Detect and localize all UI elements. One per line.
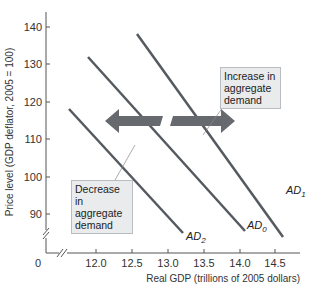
svg-text:0: 0 — [35, 257, 41, 269]
svg-text:130: 130 — [24, 58, 42, 70]
increase-arrow — [170, 109, 235, 133]
svg-text:12.5: 12.5 — [121, 257, 142, 269]
x-tick-labels: 0 12.0 12.5 13.0 13.5 14.0 14.5 — [35, 257, 286, 269]
annotation-line: demand — [75, 219, 129, 231]
svg-text:14.5: 14.5 — [264, 257, 285, 269]
annotation-line: demand — [224, 94, 277, 106]
ad0-label: AD0 — [246, 219, 267, 234]
decrease-annotation-box: Decrease in aggregate demand — [71, 180, 133, 234]
svg-text:90: 90 — [30, 208, 42, 220]
ad1-label: AD1 — [285, 184, 306, 199]
annotation-line: aggregate — [75, 207, 129, 219]
annotation-line: Decrease in — [75, 183, 129, 207]
svg-text:140: 140 — [24, 21, 42, 33]
increase-annotation-box: Increase in aggregate demand — [220, 67, 281, 109]
ad2-label: AD2 — [185, 230, 206, 245]
x-ticks — [96, 249, 275, 253]
x-axis-label: Real GDP (trillions of 2005 dollars) — [146, 273, 300, 284]
y-ticks — [46, 27, 50, 214]
svg-text:13.0: 13.0 — [157, 257, 178, 269]
svg-text:12.0: 12.0 — [85, 257, 106, 269]
svg-text:120: 120 — [24, 96, 42, 108]
svg-text:13.5: 13.5 — [193, 257, 214, 269]
y-axis-label: Price level (GDP deflator, 2005 = 100) — [4, 48, 15, 217]
svg-text:14.0: 14.0 — [229, 257, 250, 269]
svg-text:110: 110 — [24, 133, 42, 145]
svg-text:100: 100 — [24, 171, 42, 183]
chart: 140 130 120 110 100 90 0 12.0 12.5 13.0 … — [0, 0, 313, 287]
annotation-line: aggregate — [224, 82, 277, 94]
annotation-line: Increase in — [224, 70, 277, 82]
y-tick-labels: 140 130 120 110 100 90 — [24, 21, 42, 220]
